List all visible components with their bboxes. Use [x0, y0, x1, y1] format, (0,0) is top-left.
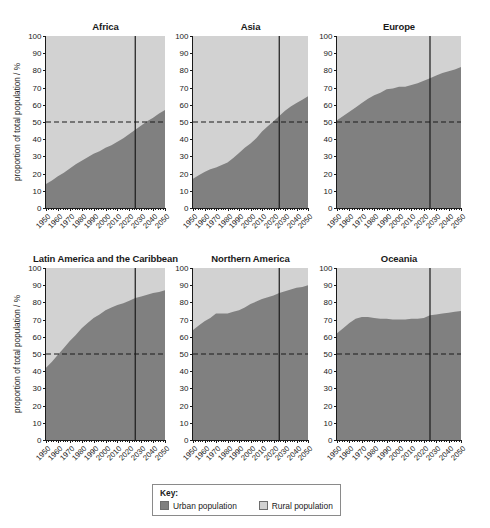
- legend: Key:Urban populationRural population: [152, 484, 341, 516]
- x-axis-tick: [419, 440, 420, 442]
- legend-title: Key:: [160, 488, 333, 498]
- chart-panel-oceania: Oceania010203040506070809010019501960197…: [0, 0, 490, 528]
- x-axis-tick: [349, 440, 350, 443]
- y-axis-tick-label: 30: [324, 384, 333, 393]
- x-axis-tick: [401, 440, 402, 442]
- y-axis-tick: [334, 371, 337, 372]
- x-axis-tick: [451, 440, 452, 442]
- y-axis-tick-label: 70: [324, 315, 333, 324]
- plot-frame: 0102030405060708090100195019601970198019…: [337, 268, 461, 440]
- y-axis-tick-label: 100: [319, 264, 332, 273]
- x-axis-tick: [399, 440, 400, 443]
- legend-swatch-icon: [259, 501, 268, 510]
- x-axis-tick: [436, 440, 437, 443]
- y-axis-tick-label: 80: [324, 298, 333, 307]
- y-axis-tick: [334, 406, 337, 407]
- x-axis-tick: [454, 440, 455, 442]
- x-axis-tick: [389, 440, 390, 442]
- x-axis-tick: [431, 440, 432, 442]
- x-axis-tick: [404, 440, 405, 442]
- y-axis-tick: [334, 302, 337, 303]
- x-axis-tick: [377, 440, 378, 442]
- x-axis-tick: [409, 440, 410, 442]
- y-axis-tick-label: 10: [324, 418, 333, 427]
- x-axis-tick: [414, 440, 415, 442]
- x-axis-tick: [411, 440, 412, 443]
- y-axis-tick: [334, 354, 337, 355]
- y-axis-tick-label: 20: [324, 401, 333, 410]
- x-axis-tick: [367, 440, 368, 442]
- x-axis-tick: [374, 440, 375, 443]
- x-axis-tick: [379, 440, 380, 442]
- x-axis-tick: [359, 440, 360, 442]
- x-axis-tick: [424, 440, 425, 443]
- x-axis-tick: [392, 440, 393, 442]
- x-axis-tick: [387, 440, 388, 443]
- legend-items: Urban populationRural population: [160, 501, 333, 511]
- urban-population-area: [337, 311, 461, 440]
- y-axis-tick: [334, 388, 337, 389]
- legend-item: Urban population: [160, 501, 237, 511]
- x-axis-tick: [362, 440, 363, 443]
- legend-item: Rural population: [259, 501, 333, 511]
- legend-label: Rural population: [272, 501, 333, 511]
- x-axis-tick: [439, 440, 440, 442]
- y-axis-tick-label: 90: [324, 281, 333, 290]
- x-axis-tick: [347, 440, 348, 442]
- x-axis-tick: [459, 440, 460, 442]
- legend-swatch-icon: [160, 501, 169, 510]
- x-axis-tick: [342, 440, 343, 442]
- x-axis-tick: [446, 440, 447, 442]
- x-axis-tick: [382, 440, 383, 442]
- x-axis-tick: [441, 440, 442, 442]
- y-axis-tick: [334, 285, 337, 286]
- x-axis-tick: [364, 440, 365, 442]
- chart-title: Oceania: [307, 253, 490, 264]
- y-axis-tick: [334, 320, 337, 321]
- y-axis-tick-label: 0: [328, 436, 332, 445]
- x-axis-tick: [449, 440, 450, 443]
- y-axis-tick: [334, 268, 337, 269]
- x-axis-tick: [372, 440, 373, 442]
- y-axis-tick: [334, 337, 337, 338]
- y-axis-tick-label: 50: [324, 350, 333, 359]
- figure-container: Africa0102030405060708090100195019601970…: [0, 0, 490, 528]
- x-axis-tick: [397, 440, 398, 442]
- x-axis-tick: [444, 440, 445, 442]
- x-axis-tick: [456, 440, 457, 442]
- legend-label: Urban population: [173, 501, 237, 511]
- x-axis-tick: [426, 440, 427, 442]
- x-axis-tick: [421, 440, 422, 442]
- x-axis-tick: [406, 440, 407, 442]
- x-axis-tick: [416, 440, 417, 442]
- x-axis-tick: [461, 440, 462, 443]
- x-axis-tick: [429, 440, 430, 442]
- x-axis-tick: [337, 440, 338, 443]
- x-axis-tick: [352, 440, 353, 442]
- x-axis-tick: [344, 440, 345, 442]
- y-axis-tick-label: 60: [324, 332, 333, 341]
- x-axis-tick: [354, 440, 355, 442]
- x-axis-tick: [369, 440, 370, 442]
- x-axis-tick: [384, 440, 385, 442]
- x-axis-tick: [434, 440, 435, 442]
- x-axis-tick: [357, 440, 358, 442]
- y-axis-tick-label: 40: [324, 367, 333, 376]
- y-axis-tick: [334, 423, 337, 424]
- x-axis-tick: [394, 440, 395, 442]
- x-axis-tick: [339, 440, 340, 442]
- plot-area: [337, 268, 461, 440]
